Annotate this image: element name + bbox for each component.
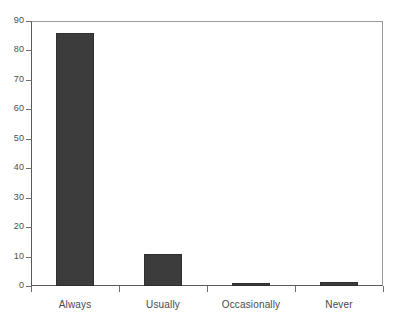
- x-axis-tick-mark: [31, 286, 32, 292]
- y-axis-tick-label: 90: [0, 16, 24, 25]
- x-axis-tick-mark: [295, 286, 296, 292]
- y-axis-tick-label: 80: [0, 45, 24, 54]
- bar-never: [320, 282, 358, 286]
- y-axis-tick-label: 50: [0, 134, 24, 143]
- y-axis-tick-label: 0: [0, 281, 24, 290]
- y-axis-tick-mark: [26, 50, 32, 51]
- y-axis-tick-label: 30: [0, 193, 24, 202]
- y-axis-tick-mark: [26, 257, 32, 258]
- y-axis-tick-label: 70: [0, 75, 24, 84]
- y-axis-tick-label: 40: [0, 163, 24, 172]
- x-axis-tick-mark: [383, 286, 384, 292]
- x-axis-tick-mark: [207, 286, 208, 292]
- bar-occasionally: [232, 283, 270, 286]
- y-axis-tick-mark: [26, 198, 32, 199]
- y-axis-tick-mark: [26, 139, 32, 140]
- y-axis-tick-label: 60: [0, 104, 24, 113]
- y-axis-tick-mark: [26, 109, 32, 110]
- y-axis-tick-label: 10: [0, 252, 24, 261]
- x-axis-tick-label: Always: [31, 299, 119, 311]
- bar-always: [56, 33, 94, 286]
- x-axis-tick-label: Usually: [119, 299, 207, 311]
- bar-usually: [144, 254, 182, 286]
- y-axis-tick-mark: [26, 80, 32, 81]
- y-axis-tick-label: 20: [0, 222, 24, 231]
- y-axis-tick-mark: [26, 227, 32, 228]
- y-axis-tick-mark: [26, 168, 32, 169]
- x-axis-tick-mark: [119, 286, 120, 292]
- x-axis-tick-label: Never: [295, 299, 383, 311]
- x-axis-tick-label: Occasionally: [207, 299, 295, 311]
- bar-chart: 0102030405060708090AlwaysUsuallyOccasion…: [0, 0, 396, 321]
- y-axis-tick-mark: [26, 21, 32, 22]
